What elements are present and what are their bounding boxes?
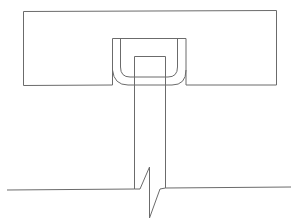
diagram-svg bbox=[0, 0, 298, 224]
top-plate-outline bbox=[24, 11, 277, 86]
ground-line-left bbox=[7, 189, 135, 190]
break-symbol bbox=[135, 167, 166, 218]
u-clip-inner bbox=[121, 39, 178, 78]
ground-line-right bbox=[166, 187, 292, 188]
diagram-canvas bbox=[0, 0, 298, 224]
